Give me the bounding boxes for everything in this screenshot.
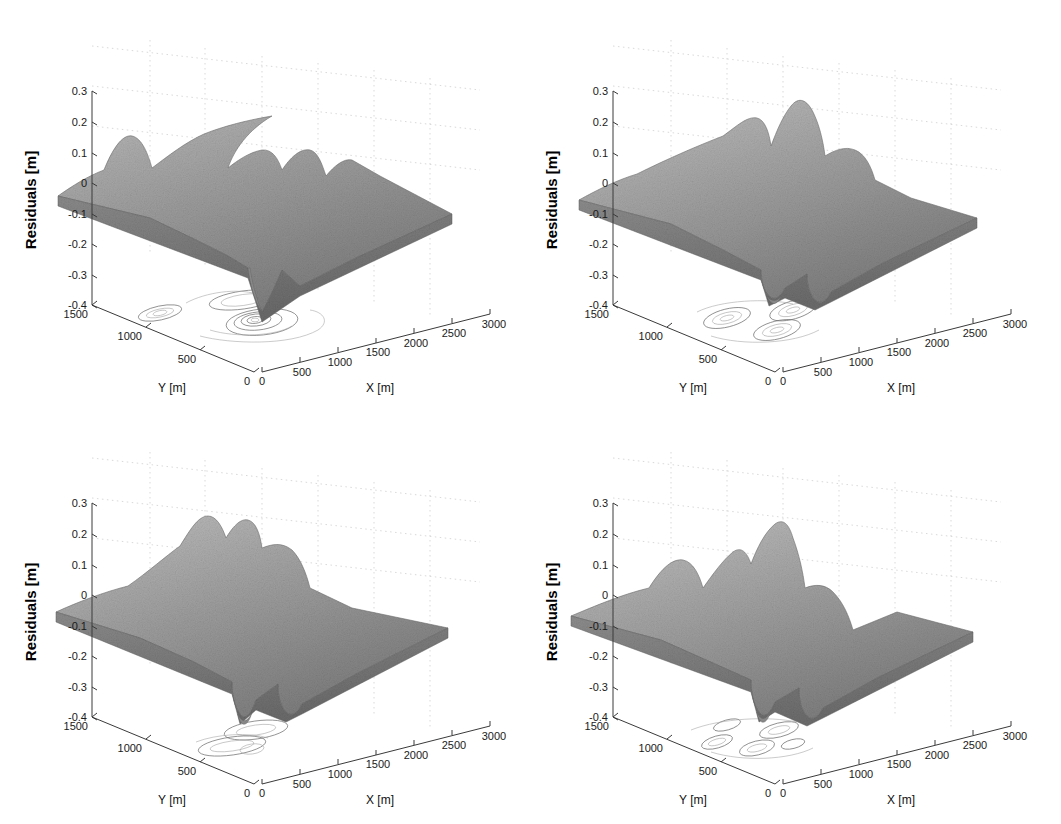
x-tick-5: 2500 [442,739,466,751]
z-tick-1: 0.2 [72,528,87,540]
z-tick-0: 0.3 [72,85,87,97]
x-tick-3: 1500 [887,346,911,358]
figure-canvas: 0.3 0.2 0.1 0 -0.1 -0.2 -0.3 -0.4 Residu… [0,0,1061,824]
z-tick-0: 0.3 [593,85,608,97]
x-tick-3: 1500 [366,758,390,770]
z-tick-0: 0.3 [593,497,608,509]
x-tick-0: 0 [780,787,786,799]
z-axis-label: Residuals [m] [22,151,39,249]
z-tick-4: -0.1 [68,620,87,632]
x-axis-bottom-right: 0 500 1000 1500 2000 2500 3000 X [m] [780,721,1027,807]
x-tick-1: 500 [293,778,311,790]
z-tick-4: -0.1 [589,620,608,632]
y-tick-3: 0 [244,787,250,799]
z-tick-2: 0.1 [72,559,87,571]
x-axis-bottom-left: 0 500 1000 1500 2000 2500 3000 X [m] [259,721,506,807]
y-axis-label: Y [m] [679,793,707,807]
x-tick-1: 500 [293,366,311,378]
z-tick-1: 0.2 [593,528,608,540]
surface-plot-top-left: 0.3 0.2 0.1 0 -0.1 -0.2 -0.3 -0.4 Residu… [0,0,530,412]
plot-panel-bottom-right: 0.3 0.2 0.1 0 -0.1 -0.2 -0.3 -0.4 Residu… [531,412,1061,824]
y-tick-0: 1500 [64,720,88,732]
x-tick-2: 1000 [849,768,873,780]
y-axis-top-right: 1500 1000 500 0 Y [m] [585,301,780,395]
plot-panel-top-left: 0.3 0.2 0.1 0 -0.1 -0.2 -0.3 -0.4 Residu… [0,0,530,412]
y-axis-label: Y [m] [158,793,186,807]
x-tick-4: 2000 [925,749,949,761]
contour-projection-bottom-right [691,716,813,759]
z-tick-2: 0.1 [72,147,87,159]
z-tick-5: -0.2 [68,238,87,250]
y-tick-3: 0 [765,375,771,387]
plot-panel-top-right: 0.3 0.2 0.1 0 -0.1 -0.2 -0.3 -0.4 Residu… [531,0,1061,412]
z-tick-2: 0.1 [593,559,608,571]
x-tick-4: 2000 [404,337,428,349]
y-tick-1: 1000 [118,742,142,754]
z-tick-6: -0.3 [68,681,87,693]
plot-panel-bottom-left: 0.3 0.2 0.1 0 -0.1 -0.2 -0.3 -0.4 Residu… [0,412,530,824]
surface-mesh-bottom-left [56,516,448,724]
z-tick-6: -0.3 [68,269,87,281]
x-tick-6: 3000 [1003,730,1027,742]
z-tick-3: 0 [81,589,87,601]
x-axis-label: X [m] [366,793,394,807]
z-tick-2: 0.1 [593,147,608,159]
y-tick-0: 1500 [585,720,609,732]
surface-plot-bottom-right: 0.3 0.2 0.1 0 -0.1 -0.2 -0.3 -0.4 Residu… [531,412,1061,824]
z-tick-1: 0.2 [593,116,608,128]
y-tick-2: 500 [178,765,196,777]
x-axis-top-left: 0 500 1000 1500 2000 2500 3000 X [m] [259,309,506,395]
x-tick-1: 500 [814,778,832,790]
x-tick-2: 1000 [849,356,873,368]
y-tick-1: 1000 [639,330,663,342]
x-axis-label: X [m] [366,381,394,395]
z-tick-4: -0.1 [68,208,87,220]
surface-mesh-top-left [58,116,452,322]
z-tick-4: -0.1 [589,208,608,220]
x-tick-3: 1500 [887,758,911,770]
y-tick-3: 0 [765,787,771,799]
x-tick-2: 1000 [328,356,352,368]
y-tick-1: 1000 [639,742,663,754]
x-tick-6: 3000 [482,318,506,330]
y-axis-bottom-right: 1500 1000 500 0 Y [m] [585,713,780,807]
surface-mesh-top-right [579,100,977,310]
x-axis-top-right: 0 500 1000 1500 2000 2500 3000 X [m] [780,309,1027,395]
y-tick-2: 500 [699,353,717,365]
x-tick-5: 2500 [963,327,987,339]
surface-plot-bottom-left: 0.3 0.2 0.1 0 -0.1 -0.2 -0.3 -0.4 Residu… [0,412,530,824]
z-tick-0: 0.3 [72,497,87,509]
x-tick-6: 3000 [482,730,506,742]
x-tick-0: 0 [780,375,786,387]
y-axis-label: Y [m] [158,381,186,395]
z-tick-6: -0.3 [589,681,608,693]
z-tick-5: -0.2 [68,650,87,662]
z-tick-5: -0.2 [589,238,608,250]
z-axis-label: Residuals [m] [543,563,560,661]
z-axis-label: Residuals [m] [22,563,39,661]
z-axis-label: Residuals [m] [543,151,560,249]
x-axis-label: X [m] [887,793,915,807]
y-tick-0: 1500 [585,308,609,320]
z-tick-6: -0.3 [589,269,608,281]
z-tick-1: 0.2 [72,116,87,128]
z-tick-3: 0 [602,589,608,601]
x-tick-5: 2500 [442,327,466,339]
y-tick-2: 500 [699,765,717,777]
x-tick-2: 1000 [328,768,352,780]
surface-mesh-bottom-right [571,522,973,726]
z-tick-3: 0 [81,177,87,189]
y-axis-label: Y [m] [679,381,707,395]
x-tick-5: 2500 [963,739,987,751]
y-tick-0: 1500 [64,308,88,320]
x-tick-3: 1500 [366,346,390,358]
y-tick-1: 1000 [118,330,142,342]
surface-plot-top-right: 0.3 0.2 0.1 0 -0.1 -0.2 -0.3 -0.4 Residu… [531,0,1061,412]
z-tick-5: -0.2 [589,650,608,662]
x-tick-4: 2000 [925,337,949,349]
y-tick-2: 500 [178,353,196,365]
x-tick-0: 0 [259,375,265,387]
x-tick-1: 500 [814,366,832,378]
x-axis-label: X [m] [887,381,915,395]
y-axis-bottom-left: 1500 1000 500 0 Y [m] [64,713,259,807]
